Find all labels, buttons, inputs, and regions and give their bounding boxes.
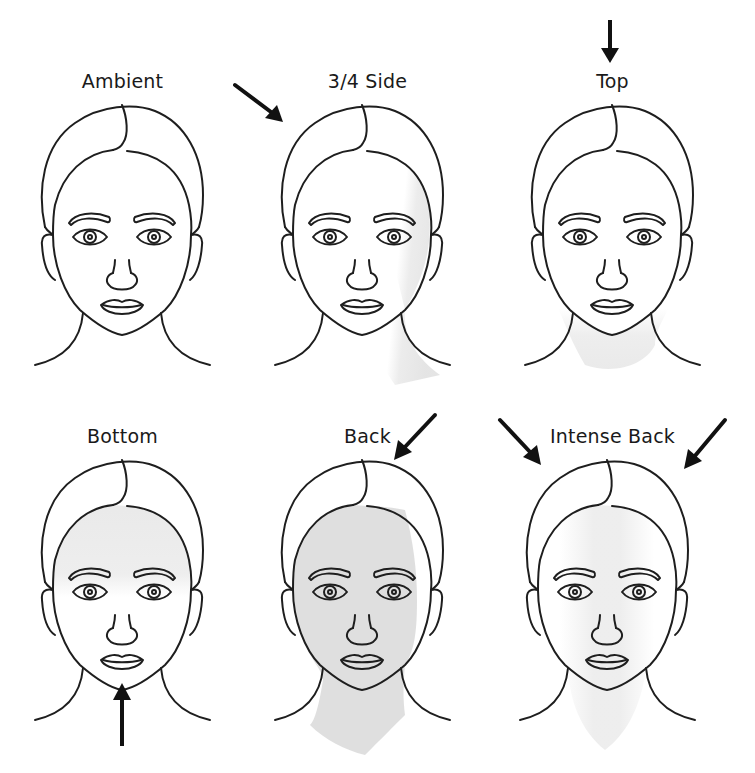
panel-intense-back: Intense Back	[490, 410, 735, 770]
shade-three-quarter-side	[362, 151, 440, 385]
panel-top: Top	[490, 0, 735, 360]
face-three-quarter-side	[245, 0, 490, 360]
panel-bottom: Bottom	[0, 410, 245, 770]
face-ambient	[0, 0, 245, 360]
arrow-three-quarter-side-icon	[235, 80, 295, 130]
arrow-intense-back-left-icon	[495, 415, 545, 470]
panel-three-quarter-side: 3/4 Side	[245, 0, 490, 360]
arrow-bottom-icon	[110, 680, 134, 750]
arrow-top-icon	[598, 18, 622, 66]
panel-back: Back	[245, 410, 490, 770]
panel-ambient: Ambient	[0, 0, 245, 360]
shade-back	[294, 505, 417, 755]
arrow-back-icon	[390, 410, 440, 465]
shade-intense-back	[540, 505, 674, 750]
face-back	[245, 410, 490, 770]
arrow-intense-back-right-icon	[680, 415, 730, 475]
